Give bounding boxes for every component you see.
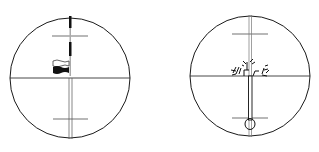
left-staff-pole-segment	[69, 42, 72, 56]
foliage-icon	[231, 59, 269, 76]
left-staff-pole-segment	[70, 28, 72, 42]
flag-icon	[53, 60, 69, 74]
left-staff-pole	[69, 16, 72, 28]
right-reticle	[190, 15, 310, 137]
left-staff-pole-segment	[70, 56, 72, 76]
left-reticle	[10, 16, 130, 139]
right-staff-pole	[249, 76, 253, 120]
reticle-diagram	[0, 0, 319, 152]
